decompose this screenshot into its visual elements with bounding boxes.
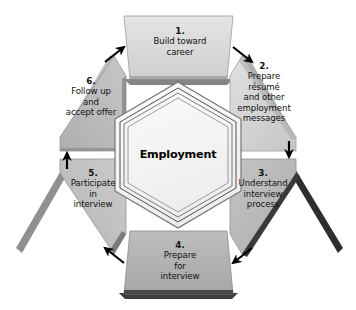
center-hexagon (115, 82, 241, 228)
step-shape-1 (124, 16, 233, 79)
diagram-canvas (0, 0, 356, 310)
step-shape-4 (124, 231, 233, 294)
employment-process-diagram: 1. Build toward career 2. Prepare résumé… (0, 0, 356, 310)
